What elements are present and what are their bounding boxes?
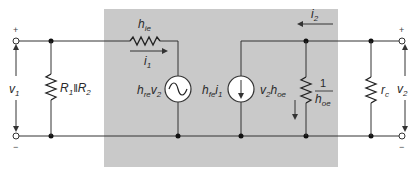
input-minus-sign: −	[13, 142, 18, 152]
output-plus-terminal[interactable]	[399, 38, 405, 44]
svg-text:1: 1	[320, 77, 326, 89]
bias-resistor-icon	[46, 74, 56, 100]
h-parameter-equivalent-circuit: + − v1 R1‖R2 hie i1 hrev2 hfei1 v2hoe	[0, 0, 419, 177]
v2-label: v2	[397, 82, 408, 98]
v1-label: v1	[9, 82, 19, 98]
input-minus-terminal[interactable]	[13, 133, 19, 139]
bias-resistor-label: R1‖R2	[60, 81, 91, 97]
output-minus-sign: −	[399, 142, 404, 152]
load-resistor-label: rc	[381, 83, 389, 99]
input-plus-sign: +	[13, 25, 18, 35]
output-minus-terminal[interactable]	[399, 133, 405, 139]
input-plus-terminal[interactable]	[13, 38, 19, 44]
source-bottom-node	[176, 134, 181, 139]
current-source-bottom-node	[239, 134, 244, 139]
load-resistor-icon	[366, 77, 376, 103]
output-plus-sign: +	[399, 25, 404, 35]
